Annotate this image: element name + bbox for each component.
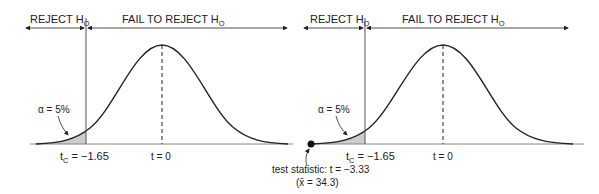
sample-mean-label: (x̄ = 34.3) [296,177,339,188]
left-panel: REJECT HO FAIL TO REJECT HO α = 5% tC = … [26,13,293,165]
hypothesis-test-diagram: REJECT HO FAIL TO REJECT HO α = 5% tC = … [0,0,599,194]
alpha-pointer-arrow [336,116,347,135]
alpha-label: α = 5% [318,104,350,115]
alpha-label: α = 5% [38,104,70,115]
right-panel: REJECT HO FAIL TO REJECT HO α = 5% tC = … [272,13,584,188]
alpha-pointer-arrow [58,116,68,135]
alpha-shaded-region [315,130,365,144]
test-statistic-point [308,141,315,148]
critical-value-label: tC = −1.65 [60,150,109,165]
critical-value-label: tC = −1.65 [346,150,395,165]
fail-to-reject-label: FAIL TO REJECT HO [122,13,225,28]
test-statistic-label: test statistic: t = −3.33 [272,164,370,175]
fail-to-reject-label: FAIL TO REJECT HO [402,13,505,28]
reject-label: REJECT HO [310,13,370,28]
center-label: t = 0 [151,151,171,162]
reject-label: REJECT HO [30,13,90,28]
center-label: t = 0 [433,151,453,162]
